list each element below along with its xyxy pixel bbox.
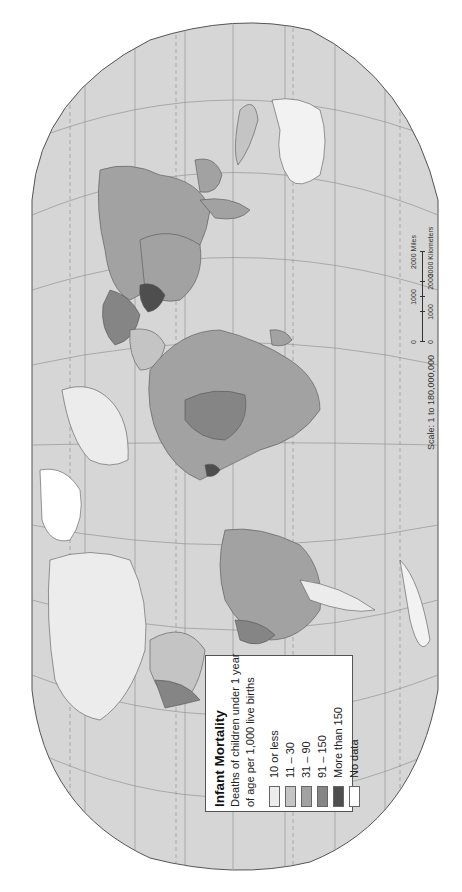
legend-subtitle-line2: of age per 1,000 live births [244, 662, 257, 807]
legend-label: No data [348, 739, 360, 778]
legend-swatch [317, 786, 328, 807]
km-tick: 1000 [427, 304, 434, 320]
legend-title: Infant Mortality [212, 662, 227, 807]
legend-item: No data [347, 662, 361, 807]
legend-item: More than 150 [331, 662, 345, 807]
legend-label: 31 – 90 [300, 741, 312, 778]
legend-item: 11 – 30 [283, 662, 297, 807]
legend-label: 10 or less [268, 730, 280, 778]
legend-subtitle-line1: Deaths of children under 1 year [229, 662, 242, 807]
legend-swatch [301, 786, 312, 807]
legend-item: 91 – 150 [315, 662, 329, 807]
legend-item: 10 or less [267, 662, 281, 807]
legend-swatch [285, 786, 296, 807]
km-tick: 3000 Kilometers [427, 227, 434, 278]
legend-swatch [349, 786, 360, 807]
legend-swatch [269, 786, 280, 807]
km-tick: 0 [427, 340, 434, 344]
scale-line: 0 1000 2000 Miles 0 1000 2000 3000 Kilom… [422, 252, 423, 342]
miles-tick: 0 [410, 340, 417, 344]
legend-label: 11 – 30 [284, 742, 296, 778]
miles-tick: 2000 Miles [410, 235, 417, 269]
legend-swatch [333, 786, 344, 807]
scale-bar: Scale: 1 to 180,000,000 0 1000 2000 Mile… [402, 230, 447, 470]
legend-label: More than 150 [332, 707, 344, 778]
legend: Infant Mortality Deaths of children unde… [205, 655, 353, 812]
miles-tick: 1000 [410, 289, 417, 305]
legend-item: 31 – 90 [299, 662, 313, 807]
legend-label: 91 – 150 [316, 735, 328, 778]
scale-text: Scale: 1 to 180,000,000 [426, 355, 436, 450]
